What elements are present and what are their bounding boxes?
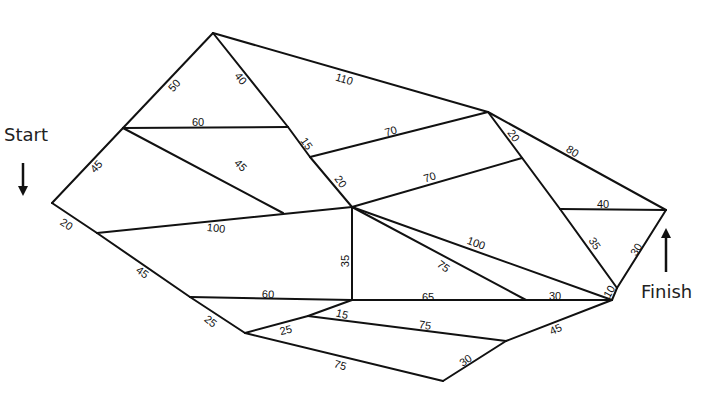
edge-T-L	[506, 300, 612, 341]
edge-B-N	[123, 128, 283, 213]
edge-U-T	[443, 341, 506, 381]
edge-C-D	[213, 33, 288, 127]
edge-weight-label: 75	[333, 357, 348, 372]
edge-E-Q	[352, 207, 526, 300]
start-arrow-icon	[18, 163, 28, 196]
edge-G-H	[310, 112, 488, 157]
edge-S-T	[308, 316, 506, 341]
edge-H-J	[488, 112, 560, 209]
network-diagram: 4550406011015207070802035403010201004545…	[0, 0, 726, 395]
edge-weight-label: 65	[422, 291, 434, 303]
edge-weight-label: 60	[262, 288, 275, 300]
edge-R-U	[245, 333, 443, 381]
edge-weight-label: 15	[298, 135, 315, 152]
edge-B-D	[123, 127, 288, 128]
finish-arrow-icon	[661, 228, 671, 272]
edge-weight-label: 100	[206, 221, 226, 235]
start-label: Start	[4, 124, 48, 145]
edge-E-I	[352, 158, 522, 207]
edge-weight-label: 60	[192, 116, 204, 128]
finish-label: Finish	[641, 281, 692, 302]
edge-weight-label: 40	[232, 70, 249, 87]
edge-J-V	[560, 209, 617, 288]
edge-weight-label: 45	[134, 264, 151, 281]
edge-layer	[52, 33, 666, 381]
edge-O-R	[190, 297, 245, 333]
edge-weight-label: 30	[549, 290, 561, 302]
edge-weight-label: 75	[418, 318, 432, 332]
edge-weight-label: 25	[278, 323, 293, 338]
edge-B-C	[123, 33, 213, 128]
edge-weight-label: 45	[232, 157, 249, 174]
edge-E-L	[352, 207, 612, 300]
edge-weight-label: 45	[88, 158, 105, 175]
edge-weight-label: 35	[339, 255, 351, 267]
edge-weight-label: 80	[564, 143, 581, 160]
edge-A-M	[52, 203, 97, 233]
edge-J-K	[560, 209, 666, 210]
edge-R-S	[245, 316, 308, 333]
edge-weight-label: 30	[457, 352, 474, 369]
edge-weight-label: 20	[58, 216, 75, 233]
edge-weight-label: 30	[628, 241, 645, 258]
edge-C-H	[213, 33, 488, 112]
edge-weight-label: 40	[597, 198, 609, 210]
